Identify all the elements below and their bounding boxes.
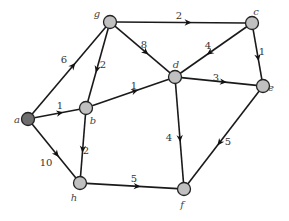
edge-line: [176, 83, 184, 182]
edge-b-h: 2: [80, 114, 89, 176]
edge-weight: 2: [176, 10, 182, 21]
node-label: g: [94, 8, 100, 19]
edge-weight: 1: [57, 100, 63, 111]
edge-line: [188, 91, 259, 184]
edge-line: [86, 183, 177, 188]
edges-layer: 611022841134525: [32, 10, 265, 189]
edge-weight: 5: [131, 173, 137, 184]
edge-g-b: 2: [88, 28, 109, 101]
node-circle: [169, 71, 182, 84]
node-circle: [246, 17, 259, 30]
node-label: d: [173, 59, 179, 70]
node-c: c: [246, 6, 260, 30]
edge-line: [180, 27, 246, 74]
node-f: f: [178, 183, 191, 211]
node-label: a: [14, 114, 20, 125]
edge-weight: 6: [61, 54, 67, 65]
node-circle: [80, 102, 93, 115]
edge-a-h: 10: [32, 124, 76, 178]
node-g: g: [94, 8, 117, 29]
node-label: e: [268, 82, 274, 93]
node-circle: [22, 113, 35, 126]
edge-weight: 10: [40, 157, 53, 168]
edge-h-f: 5: [86, 173, 177, 189]
node-circle: [74, 177, 87, 190]
edge-weight: 2: [100, 59, 106, 70]
edge-d-f: 4: [166, 83, 184, 182]
edge-c-d: 4: [180, 27, 246, 74]
edge-e-f: 5: [188, 91, 259, 184]
edge-line: [32, 27, 106, 114]
node-circle: [104, 16, 117, 29]
edge-weight: 4: [166, 132, 172, 143]
edge-line: [116, 22, 245, 23]
edge-weight: 5: [225, 136, 231, 147]
node-label: h: [71, 192, 77, 203]
node-label: b: [90, 115, 96, 126]
node-e: e: [257, 80, 275, 94]
node-d: d: [169, 59, 182, 84]
edge-weight: 1: [131, 80, 137, 91]
edge-g-c: 2: [116, 10, 245, 26]
edge-line: [32, 124, 76, 178]
node-circle: [178, 183, 191, 196]
edge-weight: 2: [83, 145, 89, 156]
node-h: h: [71, 177, 87, 204]
node-a: a: [14, 113, 34, 126]
node-label: f: [179, 199, 186, 210]
edge-weight: 8: [141, 39, 147, 50]
edge-d-e: 3: [181, 72, 256, 85]
edge-c-e: 1: [253, 29, 265, 79]
directed-graph: 611022841134525 abgcdehf: [0, 0, 289, 221]
nodes-layer: abgcdehf: [14, 6, 274, 210]
edge-weight: 1: [259, 46, 265, 57]
edge-g-d: 8: [115, 26, 170, 73]
edge-b-d: 1: [92, 79, 169, 106]
node-label: c: [253, 6, 259, 17]
edge-weight: 4: [205, 40, 211, 51]
edge-weight: 3: [213, 72, 219, 83]
edge-a-g: 6: [32, 27, 106, 114]
